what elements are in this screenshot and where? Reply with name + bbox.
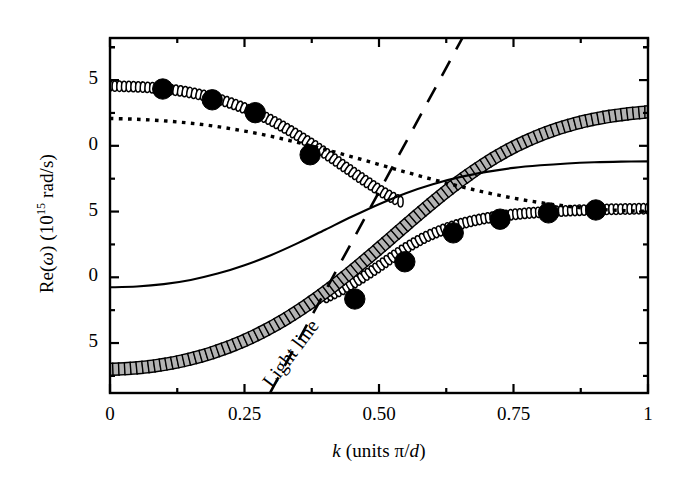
filled-circle-marker [538,203,558,223]
y-tick-label: 5 [58,199,98,221]
omega-symbol: ω [36,252,57,266]
x-axis-title-rest: (units [341,440,395,461]
filled-circle-marker [395,252,415,272]
y-axis-title: Re(ω) (1015 rad/s) [34,74,57,374]
y-tick-label: 5 [58,330,98,352]
k-symbol: k [332,440,341,461]
y-axis-title-mid: ) (10 [36,215,57,252]
filled-circle-marker [153,79,173,99]
x-tick-label: 1 [608,403,683,425]
open-circle-marker [398,196,403,206]
filled-circle-marker [202,90,222,110]
filled-circle-marker [586,200,606,220]
y-axis-title-exponent: 15 [34,203,48,215]
dispersion-figure: Re(ω) (1015 rad/s) k (units π/d) 5050500… [0,0,683,488]
pi-symbol: π [395,440,405,461]
x-axis-title-close: ) [419,440,425,461]
x-tick-label: 0.50 [339,403,419,425]
x-tick-label: 0.25 [205,403,285,425]
x-tick-label: 0 [70,403,150,425]
x-tick-label: 0.75 [474,403,554,425]
x-axis-title: k (units π/d) [110,440,648,462]
y-tick-label: 5 [58,67,98,89]
y-axis-title-post: rad/s) [36,154,57,203]
y-tick-label: 0 [58,264,98,286]
filled-circle-marker [245,102,265,122]
square-branch [107,106,651,376]
filled-circle-marker [490,209,510,229]
upper-branch-open-circles [107,81,403,207]
y-axis-title-pre: Re( [36,265,57,293]
series-layer [107,38,651,392]
filled-circle-marker [443,223,463,243]
d-symbol: d [410,440,420,461]
filled-circle-marker [345,289,365,309]
filled-circle-marker [300,145,320,165]
y-tick-label: 0 [58,133,98,155]
